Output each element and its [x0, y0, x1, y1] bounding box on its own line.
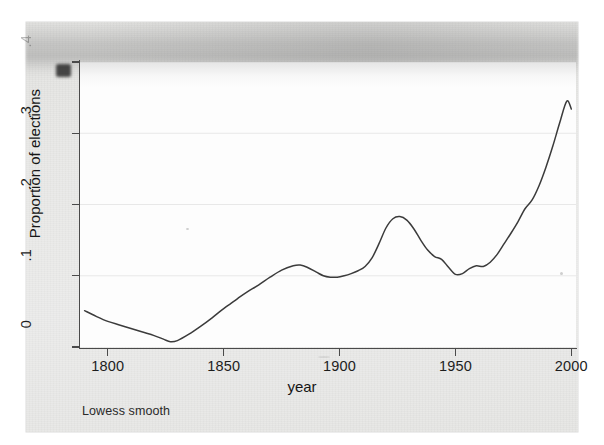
x-tick-mark [571, 349, 572, 356]
gridlines [80, 62, 576, 276]
x-tick-label: 1800 [68, 358, 148, 374]
y-tick-mark [72, 275, 79, 276]
x-tick-label: 1850 [184, 358, 264, 374]
plot-area [80, 62, 576, 347]
obscured-top-ytick-smudge [56, 64, 71, 77]
line-chart-svg [80, 62, 576, 347]
y-tick-mark [72, 346, 79, 347]
x-axis-line [79, 348, 577, 349]
x-tick-mark [107, 349, 108, 356]
x-tick-label: 2000 [531, 358, 604, 374]
y-axis-title: Proportion of elections [26, 64, 43, 264]
scan-speck [186, 228, 189, 230]
x-tick-label: 1950 [415, 358, 495, 374]
y-axis-line [79, 60, 80, 349]
y-tick-label: 0 [18, 320, 34, 372]
x-axis-title: year [0, 378, 604, 395]
x-tick-mark [339, 349, 340, 356]
y-tick-mark [72, 204, 79, 205]
scan-speck [318, 356, 330, 358]
chart-footnote: Lowess smooth [82, 404, 170, 418]
y-tick-mark [72, 61, 79, 62]
x-tick-label: 1900 [300, 358, 380, 374]
scan-speck [560, 272, 563, 275]
series-line-0 [85, 101, 572, 342]
x-tick-mark [223, 349, 224, 356]
y-tick-mark [72, 133, 79, 134]
data-series-group [85, 101, 572, 342]
x-tick-mark [455, 349, 456, 356]
